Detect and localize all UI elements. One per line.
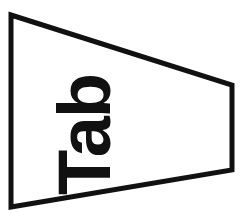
- pennant-label-text: Tab: [37, 29, 133, 199]
- pennant-tab-figure: Tab: [0, 0, 251, 224]
